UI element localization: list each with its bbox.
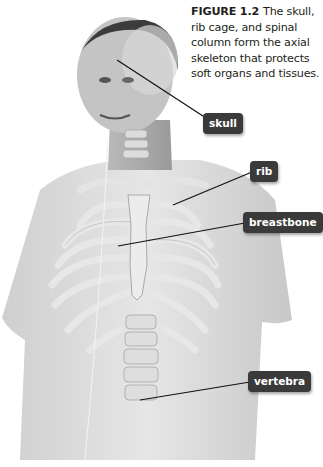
label-breastbone: breastbone: [243, 212, 323, 233]
label-vertebra: vertebra: [248, 371, 311, 392]
figure-caption: FIGURE 1.2The skull, rib cage, and spina…: [191, 4, 323, 82]
figure-number: FIGURE 1.2: [191, 5, 259, 18]
label-rib: rib: [250, 161, 278, 182]
label-skull: skull: [203, 113, 243, 134]
